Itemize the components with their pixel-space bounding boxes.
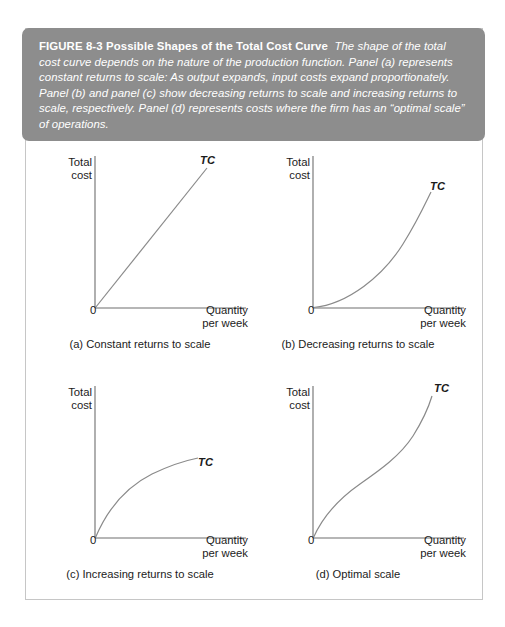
- x-axis-label-line2: per week: [420, 547, 466, 559]
- panel-d-caption: (d) Optimal scale: [248, 568, 468, 580]
- tc-curve-label: TC: [434, 382, 449, 394]
- y-axis-label-line2: cost: [71, 169, 92, 181]
- y-axis-label-line1: Total: [68, 386, 92, 398]
- y-axis-label-line2: cost: [289, 399, 310, 411]
- x-axis-label: Quantity per week: [376, 534, 466, 561]
- panel-b-plot: Total cost 0 Quantity per week TC (b) De…: [248, 152, 468, 357]
- x-axis-label: Quantity per week: [158, 534, 248, 561]
- panel-c-plot: Total cost 0 Quantity per week TC (c) In…: [30, 382, 250, 587]
- x-axis-label-line2: per week: [202, 317, 248, 329]
- panel-d-plot: Total cost 0 Quantity per week TC (d) Op…: [248, 382, 468, 587]
- origin-label: 0: [308, 534, 314, 546]
- panel-c: Total cost 0 Quantity per week TC (c) In…: [30, 382, 250, 587]
- x-axis-label-line1: Quantity: [424, 534, 466, 546]
- origin-label: 0: [308, 304, 314, 316]
- y-axis-label-line1: Total: [286, 156, 310, 168]
- x-axis-label-line2: per week: [202, 547, 248, 559]
- x-axis-label-line1: Quantity: [206, 304, 248, 316]
- tc-curve-label: TC: [430, 180, 445, 192]
- tc-curve-label: TC: [200, 154, 215, 166]
- tc-curve: [314, 396, 433, 538]
- panel-d: Total cost 0 Quantity per week TC (d) Op…: [248, 382, 468, 587]
- panel-a-caption: (a) Constant returns to scale: [30, 338, 250, 350]
- x-axis-label-line1: Quantity: [424, 304, 466, 316]
- y-axis-label-line2: cost: [71, 399, 92, 411]
- x-axis-label: Quantity per week: [376, 304, 466, 331]
- origin-label: 0: [90, 304, 96, 316]
- figure-caption-text: FIGURE 8-3 Possible Shapes of the Total …: [39, 39, 469, 133]
- tc-curve-label: TC: [198, 456, 213, 468]
- tc-curve: [96, 458, 199, 538]
- tc-curve: [314, 192, 432, 308]
- x-axis-label: Quantity per week: [158, 304, 248, 331]
- panel-a: Total cost 0 Quantity per week TC (a) Co…: [30, 152, 250, 357]
- y-axis-label-line1: Total: [68, 156, 92, 168]
- x-axis-label-line1: Quantity: [206, 534, 248, 546]
- y-axis-label-line2: cost: [289, 169, 310, 181]
- figure-number: FIGURE 8-3: [39, 40, 103, 52]
- x-axis-label-line2: per week: [420, 317, 466, 329]
- y-axis-label: Total cost: [30, 386, 92, 413]
- figure-title: Possible Shapes of the Total Cost Curve: [106, 40, 328, 52]
- panel-b: Total cost 0 Quantity per week TC (b) De…: [248, 152, 468, 357]
- y-axis-label-line1: Total: [286, 386, 310, 398]
- panel-a-plot: Total cost 0 Quantity per week TC (a) Co…: [30, 152, 250, 357]
- figure-caption-banner: FIGURE 8-3 Possible Shapes of the Total …: [22, 28, 485, 141]
- y-axis-label: Total cost: [30, 156, 92, 183]
- panel-c-caption: (c) Increasing returns to scale: [30, 568, 250, 580]
- panel-b-caption: (b) Decreasing returns to scale: [248, 338, 468, 350]
- y-axis-label: Total cost: [248, 156, 310, 183]
- origin-label: 0: [90, 534, 96, 546]
- y-axis-label: Total cost: [248, 386, 310, 413]
- tc-curve: [96, 168, 208, 308]
- figure-caption-body: The shape of the total cost curve depend…: [39, 40, 465, 130]
